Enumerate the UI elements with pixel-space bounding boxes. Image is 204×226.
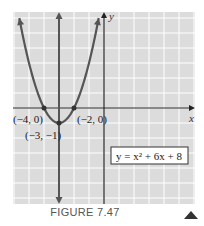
figure-caption: FIGURE 7.47 (0, 206, 170, 218)
equation-label: y = x² + 6x + 8 (116, 150, 182, 162)
y-axis-label: y (108, 10, 114, 22)
point-label: (−4, 0) (13, 113, 43, 126)
point-marker (42, 106, 47, 111)
point-label: (−2, 0) (77, 113, 107, 126)
point-label: (−3, −1) (25, 129, 62, 142)
point-marker (72, 106, 77, 111)
x-axis-label: x (188, 112, 194, 124)
point-marker (57, 121, 62, 126)
triangle-up-icon[interactable] (184, 211, 198, 219)
parabola-graph: xy(−4, 0)(−2, 0)(−3, −1)y = x² + 6x + 8 (0, 0, 204, 206)
